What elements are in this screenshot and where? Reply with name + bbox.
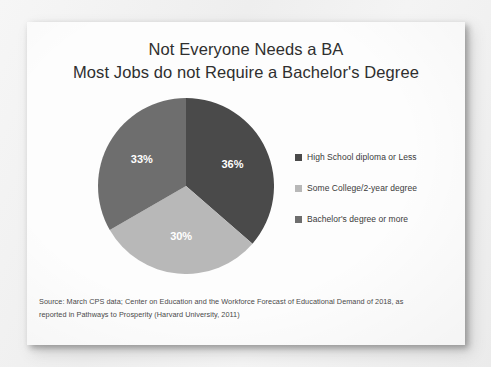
legend-item-some-college[interactable]: Some College/2-year degree (295, 183, 463, 194)
legend-swatch-icon (295, 216, 302, 223)
source-note: Source: March CPS data; Center on Educat… (39, 296, 445, 321)
pie-svg: 36% 30% 33% (98, 98, 274, 274)
pie-label-high-school: 36% (221, 158, 243, 170)
legend-label: Bachelor's degree or more (307, 214, 408, 225)
pie-slices (98, 98, 274, 274)
slide-card: Not Everyone Needs a BA Most Jobs do not… (27, 22, 465, 345)
legend-swatch-icon (295, 185, 302, 192)
title-line-2: Most Jobs do not Require a Bachelor's De… (27, 61, 465, 84)
legend-item-high-school[interactable]: High School diploma or Less (295, 152, 463, 163)
legend-swatch-icon (295, 154, 302, 161)
pie-label-bachelors: 33% (131, 153, 153, 165)
legend-label: High School diploma or Less (307, 152, 417, 163)
legend-label: Some College/2-year degree (307, 183, 417, 194)
page-title: Not Everyone Needs a BA Most Jobs do not… (27, 38, 465, 84)
pie-label-some-college: 30% (170, 230, 192, 242)
chart-legend: High School diploma or Less Some College… (295, 152, 463, 245)
legend-item-bachelors[interactable]: Bachelor's degree or more (295, 214, 463, 225)
source-line-2: reported in Pathways to Prosperity (Harv… (39, 309, 445, 322)
title-line-1: Not Everyone Needs a BA (27, 38, 465, 61)
pie-chart: 36% 30% 33% High School diploma or Less … (27, 94, 465, 306)
pie-graphic: 36% 30% 33% (98, 98, 274, 274)
source-line-1: Source: March CPS data; Center on Educat… (39, 296, 445, 309)
